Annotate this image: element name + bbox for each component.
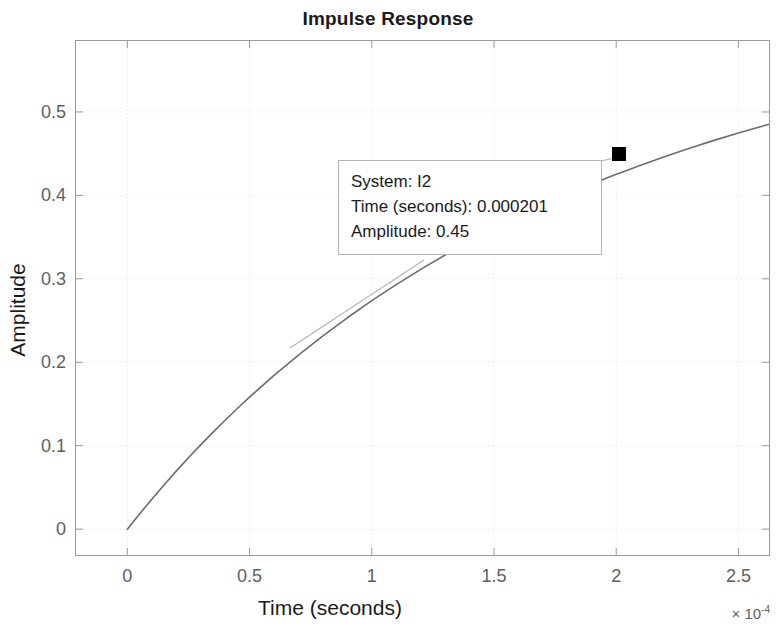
y-tick-label: 0.5 [41,101,66,122]
x-tick-label: 0.5 [237,566,262,587]
datatip-marker[interactable] [612,147,626,161]
datatip-amplitude-row: Amplitude: 0.45 [351,219,601,244]
y-tick-label: 0.3 [41,268,66,289]
datatip-box[interactable]: System: I2 Time (seconds): 0.000201 Ampl… [338,160,602,255]
datatip-time-row: Time (seconds): 0.000201 [351,194,601,219]
x-tick-label: 1.5 [481,566,506,587]
y-tick-label: 0.2 [41,352,66,373]
x-axis-tick-labels: 00.511.522.5 [0,566,776,596]
y-tick-label: 0.1 [41,435,66,456]
plot-axes[interactable] [75,40,770,556]
y-tick-label: 0.4 [41,185,66,206]
y-axis-label: Amplitude [6,200,30,420]
x-tick-label: 0 [122,566,132,587]
impulse-response-figure: Impulse Response 00.10.20.30.40.5 Amplit… [0,0,776,633]
page-title: Impulse Response [0,8,776,30]
x-axis-exponent: × 10-4 [731,604,770,622]
x-tick-label: 2.5 [726,566,751,587]
y-tick-label: 0 [56,519,66,540]
x-axis-label: Time (seconds) [0,596,660,620]
datatip-system-row: System: I2 [351,169,601,194]
plot-canvas [76,41,769,555]
x-axis-exponent-prefix: × 10 [731,605,761,622]
x-tick-label: 1 [367,566,377,587]
x-axis-exponent-power: -4 [761,604,770,615]
x-tick-label: 2 [611,566,621,587]
